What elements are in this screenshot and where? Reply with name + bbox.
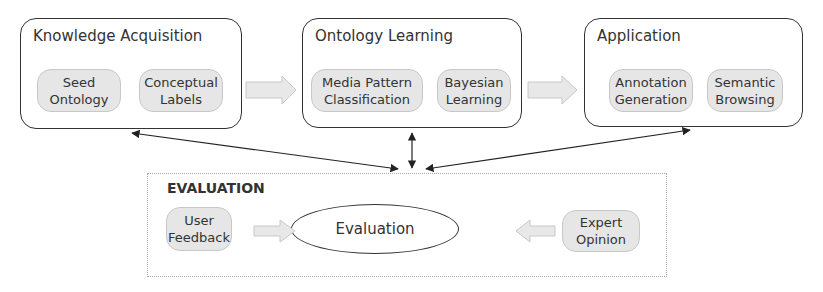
stage-title: Ontology Learning [315, 27, 453, 45]
stage-title: Knowledge Acquisition [33, 27, 202, 45]
connector-knowledge-evaluation [132, 133, 398, 169]
connector-application-evaluation [426, 130, 690, 169]
node-semantic-browsing: Semantic Browsing [707, 69, 783, 112]
flow-arrow-1-2 [246, 76, 296, 104]
node-annotation-generation: Annotation Generation [609, 69, 693, 112]
stage-knowledge-acquisition: Knowledge Acquisition Seed Ontology Conc… [20, 18, 242, 129]
stage-application: Application Annotation Generation Semant… [584, 18, 803, 127]
stage-ontology-learning: Ontology Learning Media Pattern Classifi… [302, 18, 522, 128]
evaluation-title: EVALUATION [167, 180, 265, 196]
node-user-feedback: User Feedback [166, 207, 232, 251]
node-media-pattern-classification: Media Pattern Classification [311, 69, 423, 112]
node-evaluation: Evaluation [291, 204, 459, 254]
node-expert-opinion: Expert Opinion [562, 210, 640, 252]
node-seed-ontology: Seed Ontology [37, 69, 121, 112]
evaluation-panel: EVALUATION User Feedback Evaluation Expe… [147, 173, 667, 277]
node-conceptual-labels: Conceptual Labels [139, 69, 223, 112]
flow-arrow-2-3 [528, 76, 577, 104]
node-bayesian-learning: Bayesian Learning [437, 69, 511, 112]
stage-title: Application [597, 27, 681, 45]
